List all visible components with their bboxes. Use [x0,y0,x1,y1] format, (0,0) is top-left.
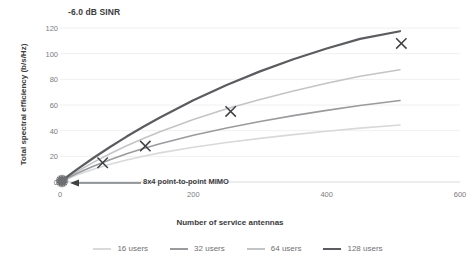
legend-swatch-line-icon [323,248,341,250]
x-marker-512-icon [396,38,406,48]
legend-label: 128 users [347,244,382,253]
legend-item[interactable]: 16 users [93,244,148,253]
legend-item[interactable]: 32 users [170,244,225,253]
chart-legend: 16 users32 users64 users128 users [0,244,476,253]
series-line-64-users [60,70,400,182]
origin-cluster-dot-icon [56,175,68,187]
legend-item[interactable]: 128 users [323,244,382,253]
legend-swatch-line-icon [170,248,188,250]
legend-swatch-line-icon [247,248,265,250]
chart-container: -6.0 dB SINR Total spectral efficiency (… [0,0,476,278]
legend-label: 64 users [271,244,302,253]
legend-item[interactable]: 64 users [247,244,302,253]
origin-dot [57,176,66,185]
annotation-mimo-label: 8x4 point-to-point MIMO [143,177,229,186]
legend-label: 32 users [194,244,225,253]
legend-label: 16 users [117,244,148,253]
annotation-arrow-head [70,180,79,187]
legend-swatch-line-icon [93,248,111,250]
plot-area [0,0,476,278]
